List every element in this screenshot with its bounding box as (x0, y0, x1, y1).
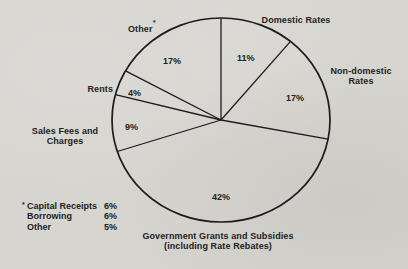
slice-label-other-text: Other (128, 24, 153, 34)
footnote-label: Borrowing (27, 211, 104, 221)
footnote-row-other: Other 5% (22, 222, 124, 232)
footnote-value: 6% (104, 211, 124, 221)
slice-label-government-grants: Government Grants and Subsidies(includin… (118, 231, 318, 251)
government-grants-line2: (including Rate Rebates) (118, 241, 318, 251)
slice-label-sales-fees-charges: Sales Fees and Charges (28, 126, 102, 146)
slice-label-domestic-rates: Domestic Rates (250, 15, 342, 25)
footnote-row-capital-receipts: * Capital Receipts 6% (22, 201, 124, 211)
other-asterisk-marker: * (153, 19, 156, 26)
footnote-label: Other (27, 222, 104, 232)
government-grants-line1: Government Grants and Subsidies (118, 231, 318, 241)
slice-label-rents: Rents (75, 84, 113, 94)
pct-label-non-domestic: 17% (286, 93, 304, 103)
pct-label-domestic: 11% (237, 53, 255, 63)
footnote-other-breakdown: * Capital Receipts 6% Borrowing 6% Other… (22, 201, 124, 232)
pct-label-government: 42% (212, 192, 230, 202)
slice-label-other: Other* (128, 24, 155, 34)
footnote-row-borrowing: Borrowing 6% (22, 211, 124, 221)
pct-label-other: 17% (163, 56, 181, 66)
footnote-label: Capital Receipts (27, 201, 104, 211)
slice-label-non-domestic-rates: Non-domestic Rates (321, 66, 401, 86)
footnote-value: 6% (104, 201, 124, 211)
pct-label-sales-fees: 9% (125, 122, 138, 132)
pct-label-rents: 4% (128, 88, 141, 98)
scanned-pie-chart-page: Domestic Rates Non-domestic Rates Other*… (0, 0, 408, 269)
footnote-value: 5% (104, 222, 124, 232)
